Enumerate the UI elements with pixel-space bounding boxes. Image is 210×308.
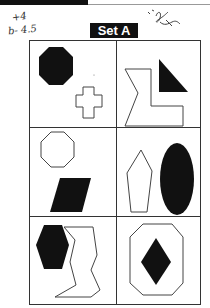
grid-cell-r3c2	[117, 217, 202, 305]
handwritten-note-1: +4	[11, 11, 27, 23]
grid-cell-r2c1	[30, 128, 116, 216]
filled-octagon-shape	[39, 47, 73, 85]
outlined-pentagon-shape	[127, 150, 152, 212]
filled-right-triangle-shape	[159, 59, 188, 92]
handwritten-note-2: b- 4.5	[8, 24, 38, 37]
outlined-octagon-shape	[41, 132, 74, 167]
handwritten-scribble	[146, 8, 182, 30]
top-black-bar	[0, 0, 88, 5]
grid-cell-r3c1	[30, 217, 116, 305]
set-title-label: Set A	[90, 23, 138, 38]
grid-cell-r1c1	[30, 41, 116, 127]
outlined-cross-shape	[76, 87, 102, 118]
stray-dot-mark	[93, 74, 94, 75]
filled-hexagon-shape	[36, 225, 69, 269]
filled-diamond-shape	[141, 238, 171, 285]
filled-parallelogram-shape	[50, 178, 91, 212]
grid-cell-r1c2	[117, 41, 202, 127]
filled-ellipse-shape	[160, 143, 194, 215]
top-rule-line	[88, 4, 210, 5]
shape-grid	[29, 40, 201, 305]
grid-cell-r2c2	[117, 128, 202, 216]
